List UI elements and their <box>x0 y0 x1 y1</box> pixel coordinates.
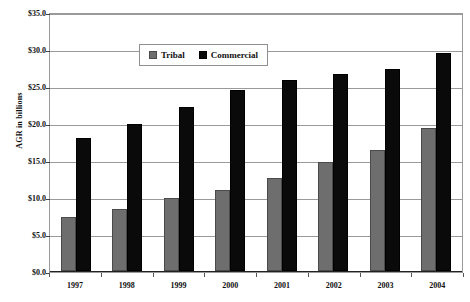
bar-commercial-2002 <box>333 74 348 271</box>
bar-commercial-1998 <box>127 124 142 271</box>
y-axis-tick-labels: $0.0$5.0$10.0$15.0$20.0$25.0$30.0$35.0 <box>10 0 46 302</box>
bar-tribal-2004 <box>421 128 436 271</box>
legend-item-tribal: Tribal <box>149 50 185 60</box>
bar-tribal-1999 <box>164 198 179 271</box>
x-axis-tick-label: 1998 <box>101 281 153 290</box>
x-axis-tick-mark <box>256 273 257 277</box>
bar-group <box>411 14 463 271</box>
x-axis-tick-mark <box>463 273 464 277</box>
bar-tribal-2003 <box>370 150 385 271</box>
x-axis-tick-marks <box>49 273 463 279</box>
x-axis-tick-label: 2004 <box>411 281 463 290</box>
legend-label: Commercial <box>211 50 258 60</box>
x-axis-tick-labels: 19971998199920002001200220032004 <box>49 281 463 290</box>
x-axis-tick-label: 2001 <box>256 281 308 290</box>
black-square-icon <box>199 51 207 59</box>
bar-commercial-1999 <box>179 107 194 271</box>
bar-group <box>359 14 411 271</box>
y-axis-tick-label: $5.0 <box>32 231 46 240</box>
bar-tribal-1997 <box>61 217 76 271</box>
y-axis-tick-label: $35.0 <box>28 9 46 18</box>
bar-tribal-2001 <box>267 178 282 271</box>
bar-commercial-2003 <box>385 69 400 271</box>
y-axis-tick-label: $10.0 <box>28 194 46 203</box>
bar-group <box>50 14 102 271</box>
x-axis-tick-mark <box>360 273 361 277</box>
x-axis-tick-mark <box>153 273 154 277</box>
x-axis-tick-label: 1997 <box>49 281 101 290</box>
bar-tribal-1998 <box>112 209 127 271</box>
x-axis-line <box>50 271 462 272</box>
legend-label: Tribal <box>161 50 185 60</box>
y-axis-tick-label: $20.0 <box>28 120 46 129</box>
legend-item-commercial: Commercial <box>199 50 258 60</box>
gray-square-icon <box>149 51 157 59</box>
chart-container: AGR in billions $0.0$5.0$10.0$15.0$20.0$… <box>0 0 470 302</box>
bar-commercial-2004 <box>436 53 451 271</box>
bar-commercial-2000 <box>230 90 245 271</box>
x-axis-tick-label: 2000 <box>204 281 256 290</box>
x-axis-tick-label: 2003 <box>360 281 412 290</box>
bar-commercial-1997 <box>76 138 91 271</box>
x-axis-tick-mark <box>308 273 309 277</box>
x-axis-tick-mark <box>204 273 205 277</box>
y-axis-tick-label: $30.0 <box>28 46 46 55</box>
x-axis-tick-mark <box>101 273 102 277</box>
y-axis-tick-label: $25.0 <box>28 83 46 92</box>
y-axis-tick-label: $0.0 <box>32 268 46 277</box>
bar-tribal-2002 <box>318 162 333 271</box>
legend: Tribal Commercial <box>139 44 268 66</box>
bar-tribal-2000 <box>215 190 230 271</box>
x-axis-tick-mark <box>49 273 50 277</box>
x-axis-tick-label: 2002 <box>308 281 360 290</box>
y-axis-tick-label: $15.0 <box>28 157 46 166</box>
bar-commercial-2001 <box>282 80 297 271</box>
x-axis-tick-label: 1999 <box>153 281 205 290</box>
bar-group <box>308 14 360 271</box>
x-axis-tick-mark <box>411 273 412 277</box>
